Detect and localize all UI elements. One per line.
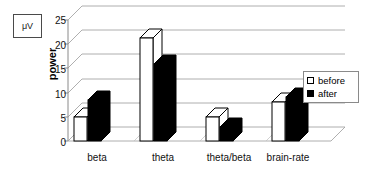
legend-swatch-before-icon [307,77,314,84]
y-tick-25: 25 [44,15,66,26]
legend: before after [303,71,359,103]
legend-swatch-after-icon [307,90,314,97]
y-tick-10: 10 [44,89,66,100]
unit-label-box: μV [13,14,42,38]
y-tick-15: 15 [44,64,66,75]
legend-item-before: before [307,74,355,87]
x-tick-label-brain-rate: brain-rate [257,152,319,163]
bar-theta-after [154,55,176,141]
bar-group-theta [140,29,176,141]
bar-group-theta-beta [206,108,242,141]
chart-container: μV power 0 5 10 15 20 25 [0,0,365,176]
bar-beta-after [88,91,110,141]
legend-label-before: before [318,75,345,86]
y-tick-5: 5 [44,113,66,124]
y-tick-20: 20 [44,40,66,51]
legend-label-after: after [318,88,337,99]
bar-group-beta [74,91,110,141]
y-tick-0: 0 [44,137,66,148]
x-tick-label-theta: theta [139,152,187,163]
legend-item-after: after [307,87,355,100]
x-tick-label-beta: beta [73,152,121,163]
unit-label-text: μV [22,21,33,31]
x-tick-label-theta-beta: theta/beta [198,152,260,163]
